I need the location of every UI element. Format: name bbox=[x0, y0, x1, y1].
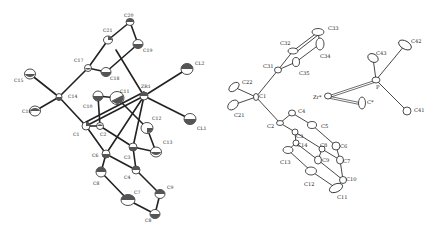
atom-label: C13 bbox=[163, 140, 172, 145]
atom-label: C34 bbox=[320, 53, 331, 59]
atom-label: C6 bbox=[92, 153, 99, 158]
atom-label: C20 bbox=[124, 13, 133, 18]
atom-label: C10 bbox=[346, 176, 357, 182]
left-atom-labels: C20C21C19C17C18ZR1CL2CL1C15C14C16C10C11C… bbox=[14, 13, 207, 223]
atom-label: C10 bbox=[83, 104, 92, 109]
atom-label: C6 bbox=[340, 143, 347, 149]
atom-label: C5 bbox=[321, 123, 328, 129]
atom-label: Zr* bbox=[313, 94, 322, 100]
atom-label: C31 bbox=[263, 63, 274, 69]
atom-label: C11 bbox=[337, 194, 348, 200]
atom-label: C33 bbox=[328, 25, 339, 31]
atom-label: C17 bbox=[74, 58, 83, 63]
atom-label: CL1 bbox=[197, 126, 207, 131]
atom-label: C41 bbox=[414, 107, 425, 113]
atom-label: ZR1 bbox=[141, 84, 151, 89]
ortep-figure: C20C21C19C17C18ZR1CL2CL1C15C14C16C10C11C… bbox=[0, 0, 431, 233]
atom-label: C4 bbox=[298, 108, 306, 114]
atom-label: C1 bbox=[259, 93, 266, 99]
atom-label: C22 bbox=[242, 79, 253, 85]
atom-label: C14 bbox=[68, 94, 77, 99]
atom-label: C11 bbox=[120, 89, 129, 94]
atom-label: C16 bbox=[22, 109, 31, 114]
atom-label: C9 bbox=[167, 185, 174, 190]
atom-label: C12 bbox=[304, 181, 315, 187]
atom-label: C8 bbox=[93, 181, 100, 186]
atom-label: C8 bbox=[320, 142, 327, 148]
atom-label: C43 bbox=[376, 50, 387, 56]
atom-label: C32 bbox=[280, 40, 291, 46]
atom-label: C15 bbox=[14, 78, 23, 83]
left-molecule-bonds bbox=[30, 22, 190, 214]
atom-label: C13 bbox=[280, 159, 291, 165]
atom-label: C3 bbox=[296, 133, 303, 139]
atom-label: C35 bbox=[299, 70, 310, 76]
atom-label: C4 bbox=[124, 175, 131, 180]
atom-label: C9 bbox=[322, 157, 329, 163]
right-atom-labels: C33C32C34C31C35C22C1C21C42C43PZr*C*C41C4… bbox=[234, 25, 425, 200]
atom-label: C* bbox=[367, 99, 374, 105]
atom-label: C12 bbox=[152, 116, 161, 121]
atom-label: CL2 bbox=[195, 61, 205, 66]
atom-label: C21 bbox=[103, 28, 112, 33]
atom-label: C42 bbox=[411, 38, 422, 44]
atom-label: C8 bbox=[145, 218, 152, 223]
atom-label: C14 bbox=[297, 142, 308, 148]
atom-label: P bbox=[376, 84, 380, 90]
atom-label: C1 bbox=[73, 132, 80, 137]
atom-label: C21 bbox=[234, 112, 245, 118]
atom-label: C2 bbox=[267, 123, 274, 129]
atom-label: C7 bbox=[343, 158, 350, 164]
atom-label: C7 bbox=[134, 190, 141, 195]
atom-label: C3 bbox=[124, 155, 131, 160]
atom-label: C2 bbox=[100, 132, 107, 137]
atom-label: C19 bbox=[143, 48, 152, 53]
atom-label: C18 bbox=[110, 76, 119, 81]
